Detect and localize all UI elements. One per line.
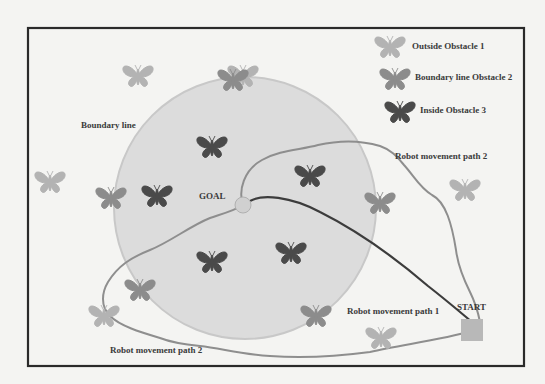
legend-butterfly-outside-icon <box>375 36 405 57</box>
diagram-canvas: Outside Obstacle 1 Boundary line Obstacl… <box>0 0 545 384</box>
start-label: START <box>457 303 486 312</box>
butterfly-outside-obstacle-icon <box>450 179 480 200</box>
legend-butterfly-inside-icon <box>385 101 415 122</box>
start-marker <box>461 319 483 341</box>
path2-bottom-label: Robot movement path 2 <box>110 346 202 355</box>
diagram-svg <box>0 0 545 384</box>
goal-marker <box>235 197 251 213</box>
legend-label-boundary: Boundary line Obstacle 2 <box>415 73 512 82</box>
legend-label-outside: Outside Obstacle 1 <box>412 42 485 51</box>
boundary-line-label: Boundary line <box>81 121 136 130</box>
legend-icons <box>375 36 415 122</box>
butterfly-outside-obstacle-icon <box>35 171 65 192</box>
butterfly-outside-obstacle-icon <box>123 65 153 86</box>
butterfly-outside-obstacle-icon <box>366 327 396 348</box>
goal-label: GOAL <box>199 192 226 201</box>
path2-top-label: Robot movement path 2 <box>395 152 487 161</box>
path1-label: Robot movement path 1 <box>347 307 439 316</box>
legend-label-inside: Inside Obstacle 3 <box>420 106 486 115</box>
legend-butterfly-boundary-icon <box>380 68 410 89</box>
